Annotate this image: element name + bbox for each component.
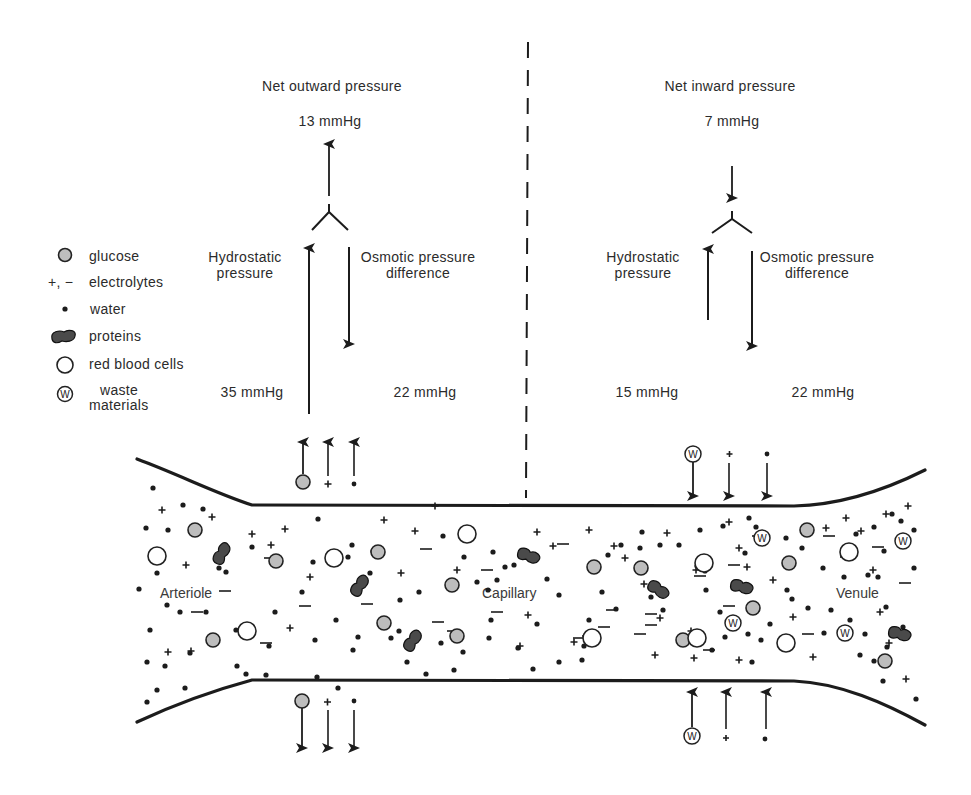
water-icon bbox=[243, 671, 248, 676]
venous-inward-flux-top: W bbox=[685, 446, 769, 496]
water-icon bbox=[637, 545, 642, 550]
electrolyte-plus-icon bbox=[744, 564, 751, 571]
electrolyte-plus-icon bbox=[736, 657, 743, 664]
water-icon bbox=[502, 564, 507, 569]
water-icon bbox=[871, 658, 876, 663]
electrolyte-plus-icon bbox=[883, 511, 890, 518]
legend-label: glucose bbox=[89, 248, 139, 264]
water-icon bbox=[847, 617, 852, 622]
water-icon bbox=[144, 699, 149, 704]
red-blood-cell-icon bbox=[777, 634, 795, 652]
legend-label: red blood cells bbox=[89, 356, 184, 372]
electrolyte-plus-icon bbox=[282, 526, 289, 533]
water-icon bbox=[613, 606, 618, 611]
hydrostatic-value: 15 mmHg bbox=[616, 384, 679, 400]
glucose-icon bbox=[634, 561, 648, 575]
resultant-junction-icon bbox=[312, 204, 348, 230]
water-icon bbox=[758, 637, 763, 642]
electrolyte-plus-icon bbox=[664, 530, 671, 537]
water-icon bbox=[494, 577, 499, 582]
electrolyte-plus-icon bbox=[622, 555, 629, 562]
water-icon bbox=[862, 631, 867, 636]
capillary-label: Capillary bbox=[482, 585, 536, 601]
electrolyte-plus-icon bbox=[550, 543, 557, 550]
legend-label: water bbox=[89, 301, 126, 317]
water-icon bbox=[272, 609, 277, 614]
water-icon bbox=[579, 657, 584, 662]
electrolyte-plus-icon bbox=[877, 609, 884, 616]
water-icon bbox=[416, 589, 421, 594]
water-icon bbox=[648, 594, 653, 599]
electrolyte-plus-icon bbox=[165, 649, 172, 656]
hydrostatic-label-line2: pressure bbox=[217, 265, 274, 281]
osmotic-value: 22 mmHg bbox=[792, 384, 855, 400]
venule-label: Venule bbox=[836, 585, 879, 601]
red-blood-cell-icon bbox=[458, 525, 476, 543]
waste-glyph: W bbox=[898, 536, 908, 547]
protein-icon bbox=[516, 546, 542, 567]
water-icon bbox=[763, 737, 768, 742]
water-icon bbox=[556, 592, 561, 597]
electrolyte-plus-icon bbox=[571, 639, 578, 646]
water-icon bbox=[249, 544, 254, 549]
venous-inward-flux-bottom: W bbox=[684, 692, 767, 744]
water-icon bbox=[911, 527, 916, 532]
water-icon bbox=[180, 502, 185, 507]
water-icon bbox=[853, 531, 858, 536]
divider-dashed-line bbox=[526, 42, 528, 498]
water-icon bbox=[310, 559, 315, 564]
water-icon bbox=[857, 652, 862, 657]
water-icon bbox=[136, 586, 141, 591]
hydrostatic-label-line1: Hydrostatic bbox=[606, 249, 679, 265]
water-icon bbox=[203, 609, 208, 614]
water-icon bbox=[460, 649, 465, 654]
electrolytes-icon: +, − bbox=[48, 274, 73, 290]
water-icon bbox=[717, 609, 722, 614]
net-inward-value: 7 mmHg bbox=[705, 113, 760, 129]
water-icon bbox=[485, 587, 490, 592]
red-blood-cell-icon bbox=[238, 622, 256, 640]
water-icon bbox=[451, 667, 456, 672]
electrolyte-icon bbox=[727, 451, 733, 457]
glucose-icon bbox=[746, 601, 760, 615]
water-icon bbox=[312, 637, 317, 642]
water-icon bbox=[676, 542, 681, 547]
legend-item-glucose: glucose bbox=[59, 248, 140, 264]
electrolyte-plus-icon bbox=[652, 652, 659, 659]
protein-icon bbox=[210, 541, 233, 567]
red-blood-cell-icon bbox=[695, 554, 713, 572]
legend-label: waste bbox=[99, 382, 138, 398]
water-icon bbox=[889, 511, 894, 516]
water-icon bbox=[820, 565, 825, 570]
glucose-icon bbox=[445, 578, 459, 592]
electrolyte-plus-icon bbox=[736, 545, 743, 552]
electrolyte-plus-icon bbox=[209, 514, 216, 521]
arterial-outward-flux-bottom bbox=[295, 694, 356, 748]
water-icon bbox=[881, 548, 886, 553]
water-icon bbox=[871, 524, 876, 529]
venous-net-pressure: Net inward pressure 7 mmHg bbox=[665, 78, 796, 233]
waste-glyph: W bbox=[687, 731, 697, 742]
water-icon bbox=[746, 515, 751, 520]
water-icon bbox=[162, 663, 167, 668]
waste-glyph: W bbox=[757, 533, 767, 544]
net-outward-label: Net outward pressure bbox=[262, 78, 402, 94]
glucose-icon bbox=[59, 249, 72, 262]
electrolyte-plus-icon bbox=[268, 542, 275, 549]
red-blood-cell-icon bbox=[325, 549, 343, 567]
legend-label: materials bbox=[89, 397, 149, 413]
arteriole-label: Arteriole bbox=[160, 585, 212, 601]
water-icon bbox=[639, 529, 644, 534]
water-icon bbox=[534, 621, 539, 626]
water-icon bbox=[315, 516, 320, 521]
water-icon bbox=[147, 627, 152, 632]
hydrostatic-label-line1: Hydrostatic bbox=[208, 249, 281, 265]
water-icon bbox=[404, 659, 409, 664]
glucose-icon bbox=[206, 633, 220, 647]
arterial-osmotic: Osmotic pressure difference 22 mmHg bbox=[349, 247, 475, 400]
waste-glyph: W bbox=[840, 628, 850, 639]
electrolyte-plus-icon bbox=[398, 570, 405, 577]
waste-glyph: W bbox=[688, 449, 698, 460]
protein-icon bbox=[887, 624, 912, 644]
osmotic-label-line2: difference bbox=[785, 265, 849, 281]
